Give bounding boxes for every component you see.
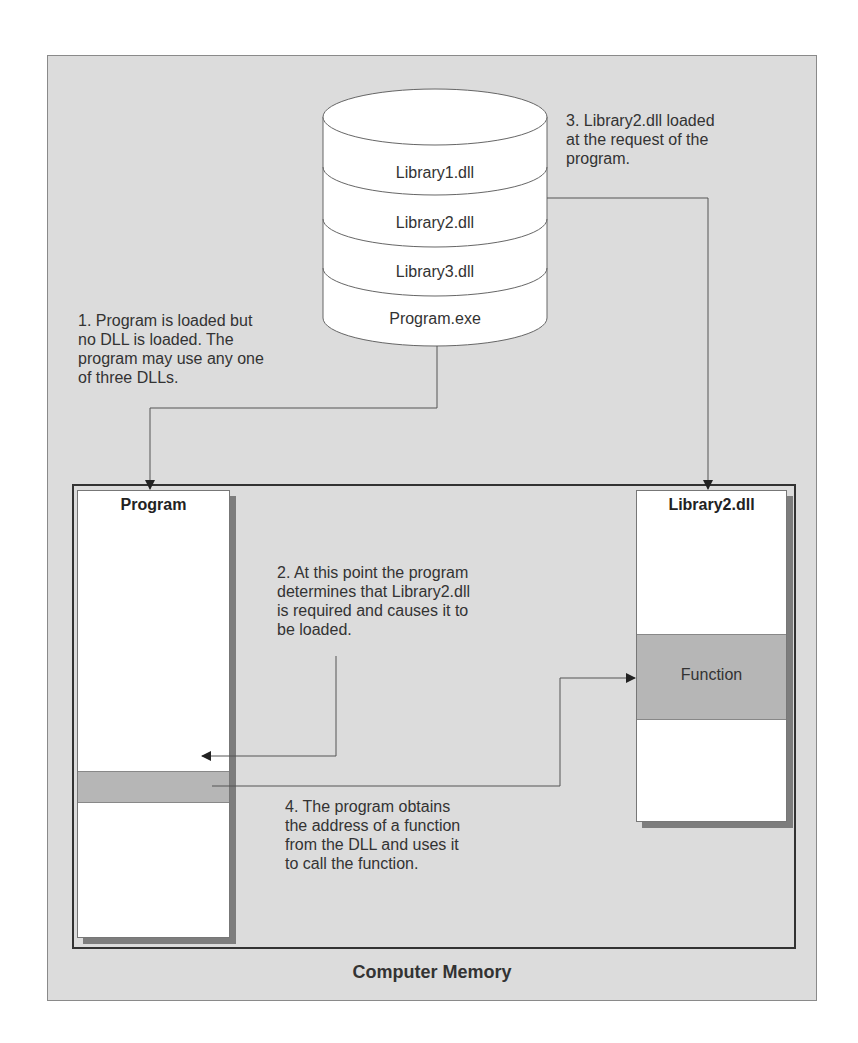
step-1-line: of three DLLs. [78, 368, 264, 387]
step-1-line: 1. Program is loaded but [78, 311, 264, 330]
step-4-line: from the DLL and uses it [285, 835, 460, 854]
step-2-note: 2. At this point the program determines … [277, 563, 470, 639]
step-3-line: program. [566, 149, 715, 168]
step-3-note: 3. Library2.dll loaded at the request of… [566, 111, 715, 168]
step-4-line: the address of a function [285, 816, 460, 835]
step-2-line: is required and causes it to [277, 601, 470, 620]
step-2-line: determines that Library2.dll [277, 582, 470, 601]
computer-memory-caption: Computer Memory [47, 962, 817, 983]
step-1-line: no DLL is loaded. The [78, 330, 264, 349]
step-4-note: 4. The program obtains the address of a … [285, 797, 460, 873]
step-3-line: 3. Library2.dll loaded [566, 111, 715, 130]
step-2-line: 2. At this point the program [277, 563, 470, 582]
step-3-line: at the request of the [566, 130, 715, 149]
step-2-line: be loaded. [277, 620, 470, 639]
connector-lines [0, 0, 858, 1043]
step-4-line: 4. The program obtains [285, 797, 460, 816]
step-1-note: 1. Program is loaded but no DLL is loade… [78, 311, 264, 387]
step-1-line: program may use any one [78, 349, 264, 368]
step-4-line: to call the function. [285, 854, 460, 873]
